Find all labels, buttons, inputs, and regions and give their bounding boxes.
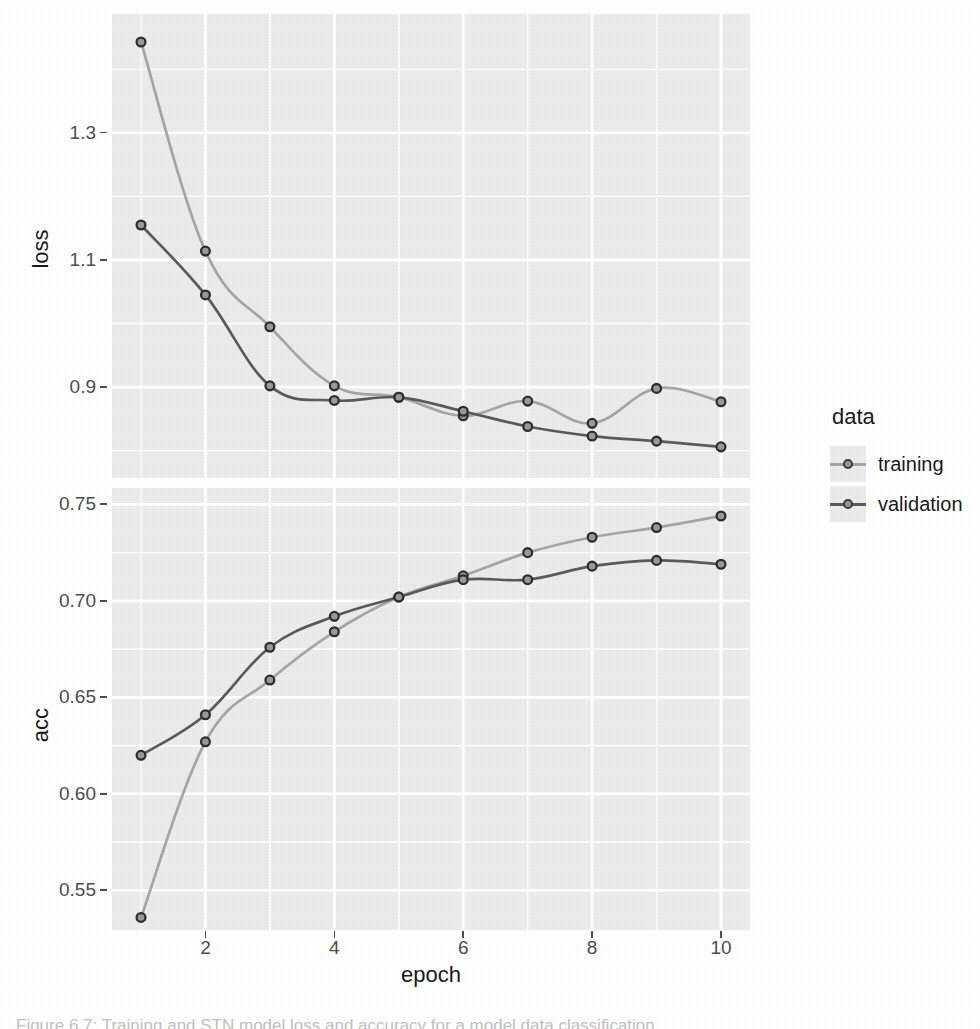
data-point — [265, 643, 274, 652]
data-point — [265, 676, 274, 685]
x-axis-title: epoch — [112, 962, 750, 988]
x-axis-tick-mark — [720, 931, 722, 938]
data-point — [459, 407, 468, 416]
legend-item-label: validation — [878, 493, 963, 516]
data-point — [330, 381, 339, 390]
data-point — [717, 512, 726, 521]
data-point — [201, 710, 210, 719]
legend: data trainingvalidation — [830, 404, 980, 526]
data-point — [330, 396, 339, 405]
legend-title: data — [832, 404, 980, 430]
data-point — [717, 397, 726, 406]
y-axis-title-loss: loss — [28, 204, 54, 294]
y-axis-tick-mark-acc — [100, 503, 107, 505]
y-axis-tick-label-loss: 0.9 — [0, 377, 96, 396]
x-axis-tick-label: 6 — [458, 938, 469, 957]
data-point — [588, 432, 597, 441]
data-point — [459, 575, 468, 584]
data-point — [652, 437, 661, 446]
figure-caption: Figure 6.7: Training and STN model loss … — [16, 1017, 736, 1029]
line-point-key-icon — [830, 486, 866, 522]
loss-plot-canvas — [112, 14, 750, 478]
y-axis-tick-mark-acc — [100, 696, 107, 698]
data-point — [394, 393, 403, 402]
panel-acc — [112, 488, 750, 930]
data-point — [523, 548, 532, 557]
data-point — [588, 562, 597, 571]
data-point — [523, 397, 532, 406]
panel-loss — [112, 14, 750, 478]
data-point — [201, 291, 210, 300]
legend-key-point — [843, 499, 853, 509]
data-point — [717, 560, 726, 569]
data-point — [523, 575, 532, 584]
figure-training-history: 0.91.11.30.550.600.650.700.75246810 loss… — [0, 0, 980, 1029]
y-axis-tick-mark-acc — [100, 600, 107, 602]
x-axis-tick-mark — [462, 931, 464, 938]
data-point — [330, 612, 339, 621]
x-axis-tick-label: 8 — [587, 938, 598, 957]
y-axis-tick-mark-loss — [100, 386, 107, 388]
y-axis-tick-label-loss: 1.3 — [0, 123, 96, 142]
y-axis-tick-mark-acc — [100, 793, 107, 795]
data-point — [394, 593, 403, 602]
data-point — [523, 422, 532, 431]
x-axis-tick-mark — [591, 931, 593, 938]
y-axis-tick-label-acc: 0.55 — [0, 880, 96, 899]
y-axis-tick-label-acc: 0.70 — [0, 591, 96, 610]
y-axis-tick-mark-loss — [100, 132, 107, 134]
y-axis-title-acc: acc — [28, 680, 54, 770]
data-point — [137, 221, 146, 230]
data-point — [588, 419, 597, 428]
legend-item-training[interactable]: training — [830, 446, 980, 482]
legend-item-label: training — [878, 453, 944, 476]
data-point — [652, 384, 661, 393]
x-axis-tick-label: 10 — [710, 938, 731, 957]
y-axis-tick-label-acc: 0.75 — [0, 494, 96, 513]
x-axis-tick-mark — [334, 931, 336, 938]
y-axis-tick-mark-acc — [100, 889, 107, 891]
acc-plot-canvas — [112, 488, 750, 930]
y-axis-tick-mark-loss — [100, 259, 107, 261]
data-point — [137, 38, 146, 47]
data-point — [330, 627, 339, 636]
data-point — [717, 442, 726, 451]
data-point — [265, 322, 274, 331]
data-point — [137, 913, 146, 922]
legend-items: trainingvalidation — [830, 446, 980, 522]
data-point — [588, 533, 597, 542]
legend-item-validation[interactable]: validation — [830, 486, 980, 522]
y-axis-tick-label-acc: 0.60 — [0, 784, 96, 803]
x-axis-tick-label: 2 — [200, 938, 211, 957]
data-point — [652, 523, 661, 532]
data-point — [652, 556, 661, 565]
data-point — [201, 737, 210, 746]
data-point — [137, 751, 146, 760]
x-axis-tick-label: 4 — [329, 938, 340, 957]
data-point — [201, 247, 210, 256]
x-axis-tick-mark — [205, 931, 207, 938]
data-point — [265, 381, 274, 390]
line-point-key-icon — [830, 446, 866, 482]
legend-key-point — [843, 459, 853, 469]
